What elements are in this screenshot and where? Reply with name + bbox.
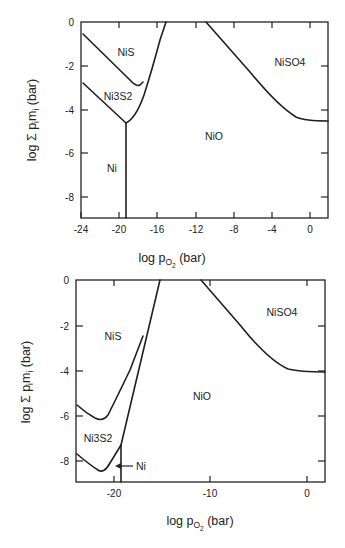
- y-tick-labels: 0 -2 -4 -6 -8: [65, 17, 74, 203]
- svg-text:-6: -6: [60, 411, 69, 422]
- svg-text:-20: -20: [112, 224, 127, 235]
- sulfide-nio-boundary: [121, 280, 160, 445]
- svg-text:0: 0: [68, 17, 74, 28]
- nis-ni3s2-boundary: [77, 336, 143, 419]
- svg-text:-10: -10: [203, 488, 218, 499]
- region-niso4: NiSO4: [275, 56, 306, 68]
- ni3s2-ni-boundary: [83, 83, 126, 123]
- x-axis-label: log pO2 (bar): [166, 514, 233, 532]
- y-tick-labels: 0 -2 -4 -6 -8: [60, 275, 69, 467]
- svg-text:-20: -20: [107, 488, 122, 499]
- x-tick-labels: -20 -10 0: [107, 488, 310, 499]
- region-nis: NiS: [105, 330, 122, 342]
- svg-text:-4: -4: [65, 105, 74, 116]
- svg-text:-24: -24: [74, 224, 89, 235]
- ni-arrow-annotation: Ni: [115, 460, 146, 472]
- y-axis-label: log Σ pimi (bar): [19, 341, 35, 423]
- svg-text:0: 0: [307, 224, 313, 235]
- ni3s2-ni-boundary: [77, 445, 121, 471]
- region-ni: Ni: [136, 460, 146, 472]
- svg-text:-6: -6: [65, 148, 74, 159]
- region-nis: NiS: [118, 46, 135, 58]
- x-axis-label: log pO2 (bar): [138, 251, 205, 269]
- region-labels: NiS Ni3S2 NiO NiSO4: [84, 306, 298, 444]
- nis-ni3s2-boundary: [83, 34, 143, 85]
- y-axis-label: log Σ pimi (bar): [25, 79, 41, 161]
- svg-text:0: 0: [63, 275, 69, 286]
- svg-text:-2: -2: [65, 61, 74, 72]
- svg-text:-2: -2: [60, 321, 69, 332]
- svg-text:-12: -12: [189, 224, 204, 235]
- top-chart-svg: -24 -20 -16 -12 -8 -4 0 0 -2 -4 -6 -8 Ni…: [0, 0, 345, 275]
- x-ticks: [81, 22, 310, 218]
- region-ni3s2: Ni3S2: [104, 90, 133, 102]
- top-chart: -24 -20 -16 -12 -8 -4 0 0 -2 -4 -6 -8 Ni…: [0, 0, 345, 275]
- region-ni: Ni: [107, 162, 117, 174]
- svg-text:-8: -8: [230, 224, 239, 235]
- bottom-chart: -20 -10 0 0 -2 -4 -6 -8 Ni NiS Ni3S2: [0, 270, 345, 548]
- region-labels: NiS Ni3S2 Ni NiO NiSO4: [104, 46, 306, 174]
- region-nio: NiO: [205, 130, 223, 142]
- nio-niso4-boundary: [206, 22, 328, 121]
- sulfide-nio-boundary: [126, 22, 166, 123]
- nio-niso4-boundary: [201, 280, 325, 372]
- svg-text:-8: -8: [60, 456, 69, 467]
- region-nio: NiO: [193, 390, 211, 402]
- bottom-chart-svg: -20 -10 0 0 -2 -4 -6 -8 Ni NiS Ni3S2: [0, 270, 345, 548]
- arrow-head-icon: [115, 463, 121, 469]
- x-tick-labels: -24 -20 -16 -12 -8 -4 0: [74, 224, 313, 235]
- svg-text:-16: -16: [150, 224, 165, 235]
- svg-text:-4: -4: [60, 366, 69, 377]
- region-ni3s2: Ni3S2: [84, 432, 113, 444]
- svg-text:-4: -4: [268, 224, 277, 235]
- svg-text:-8: -8: [65, 192, 74, 203]
- svg-text:0: 0: [304, 488, 310, 499]
- region-niso4: NiSO4: [267, 306, 298, 318]
